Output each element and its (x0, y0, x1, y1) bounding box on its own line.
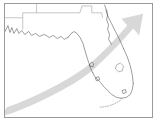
barrier-islands (107, 10, 112, 44)
alabama-border (23, 4, 37, 30)
florida-keys (100, 100, 121, 107)
gulf-coast-panhandle (5, 26, 68, 40)
storm-track-arrow (5, 14, 143, 115)
biscayne-bay (122, 89, 126, 93)
state-borders (5, 4, 103, 30)
map-frame (4, 3, 153, 118)
gulf-coast-southwest (93, 73, 122, 99)
lake-okeechobee (115, 63, 123, 72)
storm-track-arrow-shape (5, 14, 143, 115)
south-tip (121, 84, 133, 99)
atlantic-coast-south (123, 48, 133, 83)
georgia-border (37, 6, 103, 18)
charlotte-harbor (96, 77, 100, 81)
map-thumbnail (0, 0, 160, 125)
map-canvas (5, 4, 152, 117)
